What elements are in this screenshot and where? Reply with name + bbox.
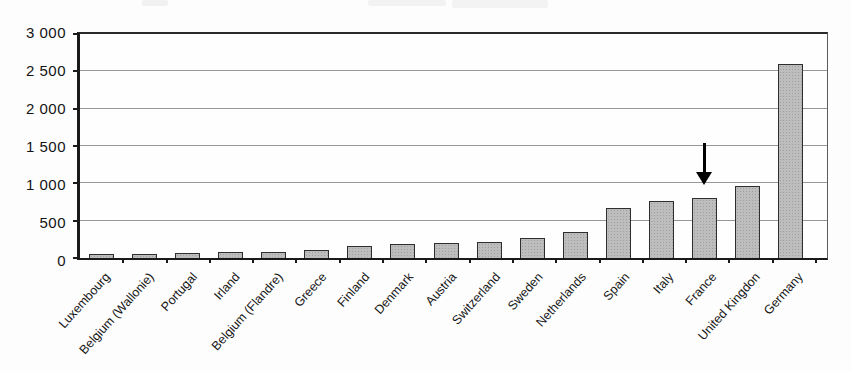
bar-luxembourg — [89, 254, 114, 258]
x-tick — [425, 258, 427, 263]
cropped-text-remnant — [452, 0, 548, 8]
bar-slot-16 — [726, 34, 769, 258]
bars-layer — [80, 34, 812, 258]
y-axis-label-2500: 2 500 — [26, 62, 66, 79]
arrow-shaft — [703, 143, 706, 172]
bar-portugal — [175, 253, 200, 258]
bar-belgium-flandre — [261, 252, 286, 258]
y-tick-0 — [73, 257, 80, 259]
y-axis-label-3000: 3 000 — [26, 24, 66, 41]
x-axis-label-belgium-wallonie: Belgium (Wallonie) — [76, 270, 156, 357]
cropped-text-remnant — [368, 0, 446, 6]
bar-belgium-wallonie — [132, 254, 157, 258]
y-tick-1500 — [73, 145, 80, 147]
bar-slot-17 — [769, 34, 812, 258]
x-tick — [382, 258, 384, 263]
y-axis-label-500: 500 — [39, 214, 66, 231]
x-axis-label-italy: Italy — [650, 270, 676, 296]
y-axis-label-1500: 1 500 — [26, 138, 66, 155]
x-tick — [772, 258, 774, 263]
bar-slot-14 — [640, 34, 683, 258]
x-axis-label-finland: Finland — [335, 270, 373, 310]
x-tick — [469, 258, 471, 263]
bar-slot-1 — [80, 34, 123, 258]
y-tick-2500 — [73, 70, 80, 72]
y-tick-500 — [73, 220, 80, 222]
bar-slot-12 — [554, 34, 597, 258]
x-tick — [599, 258, 601, 263]
x-tick — [728, 258, 730, 263]
y-axis-label-2000: 2 000 — [26, 100, 66, 117]
arrow-head — [696, 172, 712, 185]
bar-slot-9 — [425, 34, 468, 258]
bar-slot-4 — [209, 34, 252, 258]
x-tick — [122, 258, 124, 263]
x-axis-labels: LuxembourgBelgium (Wallonie)PortugalIrla… — [0, 268, 851, 371]
bar-slot-10 — [468, 34, 511, 258]
bar-greece — [304, 250, 329, 258]
cropped-text-remnant — [142, 0, 168, 6]
bar-slot-8 — [381, 34, 424, 258]
y-tick-3000 — [73, 33, 80, 35]
y-axis-labels: 05001 0001 5002 0002 5003 000 — [0, 32, 68, 260]
x-axis-label-irland: Irland — [212, 270, 243, 303]
bar-slot-6 — [295, 34, 338, 258]
down-arrow-icon — [696, 143, 712, 185]
bar-germany — [778, 64, 803, 258]
x-axis-label-denmark: Denmark — [372, 270, 416, 317]
x-tick — [512, 258, 514, 263]
bar-switzerland — [477, 242, 502, 258]
bar-united-kingdon — [735, 186, 760, 258]
x-axis-label-austria: Austria — [423, 270, 459, 308]
x-tick — [339, 258, 341, 263]
x-axis-label-sweden: Sweden — [505, 270, 546, 313]
bar-italy — [649, 201, 674, 258]
bar-slot-11 — [511, 34, 554, 258]
y-axis-label-1000: 1 000 — [26, 176, 66, 193]
x-tick — [685, 258, 687, 263]
x-axis-label-spain: Spain — [601, 270, 633, 303]
x-axis-label-greece: Greece — [292, 270, 330, 310]
bar-netherlands — [563, 232, 588, 258]
x-tick — [642, 258, 644, 263]
x-tick — [555, 258, 557, 263]
x-tick — [209, 258, 211, 263]
bar-slot-13 — [597, 34, 640, 258]
bar-slot-3 — [166, 34, 209, 258]
y-tick-2000 — [73, 108, 80, 110]
bar-spain — [606, 208, 631, 258]
x-tick — [166, 258, 168, 263]
scanned-bar-chart: 05001 0001 5002 0002 5003 000 Luxembourg… — [0, 0, 851, 371]
x-axis-label-france: France — [683, 270, 719, 308]
x-axis-label-portugal: Portugal — [158, 270, 200, 314]
bar-slot-5 — [252, 34, 295, 258]
x-axis-label-germany: Germany — [761, 270, 806, 318]
x-tick — [295, 258, 297, 263]
x-tick — [815, 258, 817, 263]
bar-slot-2 — [123, 34, 166, 258]
bar-france — [692, 198, 717, 258]
x-tick — [252, 258, 254, 263]
plot-area — [77, 32, 828, 260]
bar-slot-7 — [338, 34, 381, 258]
bar-slot-15 — [683, 34, 726, 258]
bar-austria — [434, 243, 459, 258]
bar-denmark — [390, 244, 415, 258]
bar-sweden — [520, 238, 545, 258]
y-tick-1000 — [73, 182, 80, 184]
bar-finland — [347, 246, 372, 258]
bar-irland — [218, 252, 243, 258]
y-axis-label-0: 0 — [57, 252, 66, 269]
